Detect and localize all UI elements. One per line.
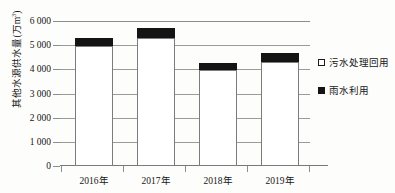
y-tick-label-4000: 4 000 (30, 64, 51, 74)
bar-2017年 (137, 28, 175, 166)
legend-item-reclaimed-water: 污水处理回用 (318, 55, 389, 69)
y-tick-0 (53, 166, 60, 167)
y-tick-6000 (53, 21, 60, 22)
bar-segment-rainwater-2018年 (199, 63, 237, 70)
bar-2016年 (75, 38, 113, 166)
x-tick-left-2017年 (123, 166, 124, 172)
y-tick-label-2000: 2 000 (30, 113, 51, 123)
x-tick-label-2016年: 2016年 (80, 173, 109, 187)
bar-segment-rainwater-2019年 (261, 53, 299, 61)
y-tick-5000 (53, 45, 60, 46)
bar-segment-rainwater-2017年 (137, 28, 175, 38)
y-tick-label-0: 0 (46, 161, 51, 171)
x-tick-left-2016年 (61, 166, 62, 172)
y-tick-label-5000: 5 000 (30, 40, 51, 50)
x-tick-label-2018年: 2018年 (204, 173, 233, 187)
bar-chart: 其他水源供水量(万m3) 01 0002 0003 0004 0005 0006… (0, 0, 395, 193)
legend-item-rainwater: 雨水利用 (318, 83, 389, 97)
y-tick-2000 (53, 118, 60, 119)
gridline-6000 (60, 21, 310, 22)
y-tick-3000 (53, 94, 60, 95)
y-axis-title: 其他水源供水量(万m3) (9, 0, 23, 129)
bar-segment-rainwater-2016年 (75, 38, 113, 46)
y-axis-title-exponent: 3 (10, 14, 17, 17)
bar-segment-reclaimed-water-2017年 (137, 38, 175, 166)
y-tick-label-3000: 3 000 (30, 89, 51, 99)
x-tick-left-2018年 (185, 166, 186, 172)
plot-area: 01 0002 0003 0004 0005 0006 0002016年2017… (60, 21, 310, 166)
legend-swatch-open-square-icon (318, 59, 325, 66)
legend-label-reclaimed-water: 污水处理回用 (329, 55, 389, 69)
y-axis-title-tail: ) (12, 11, 22, 14)
bar-2018年 (199, 63, 237, 166)
chart-legend: 污水处理回用 雨水利用 (318, 55, 389, 111)
y-axis-title-text: 其他水源供水量(万m (12, 17, 22, 108)
bar-segment-reclaimed-water-2019年 (261, 62, 299, 166)
y-tick-label-6000: 6 000 (30, 16, 51, 26)
y-tick-1000 (53, 142, 60, 143)
x-tick-right-2019年 (309, 166, 310, 172)
legend-label-rainwater: 雨水利用 (329, 83, 369, 97)
x-tick-label-2017年: 2017年 (142, 173, 171, 187)
bar-segment-reclaimed-water-2018年 (199, 70, 237, 166)
x-tick-left-2019年 (247, 166, 248, 172)
y-tick-label-1000: 1 000 (30, 137, 51, 147)
bar-2019年 (261, 53, 299, 166)
x-tick-label-2019年: 2019年 (266, 173, 295, 187)
y-tick-4000 (53, 69, 60, 70)
bar-segment-reclaimed-water-2016年 (75, 46, 113, 166)
legend-swatch-filled-square-icon (318, 87, 325, 94)
